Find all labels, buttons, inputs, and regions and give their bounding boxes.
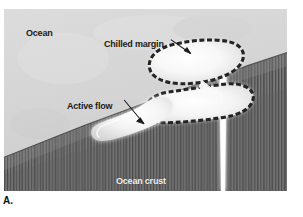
label-ocean: Ocean (26, 29, 53, 38)
label-chilled-margin: Chilled margin (104, 40, 164, 49)
label-active-flow: Active flow (67, 102, 112, 111)
figure-root: Ocean Chilled margin Active flow Ocean c… (0, 0, 303, 217)
panel-letter: A. (3, 196, 13, 206)
illustration-frame: Ocean Chilled margin Active flow Ocean c… (3, 8, 288, 192)
label-ocean-crust: Ocean crust (116, 177, 166, 186)
